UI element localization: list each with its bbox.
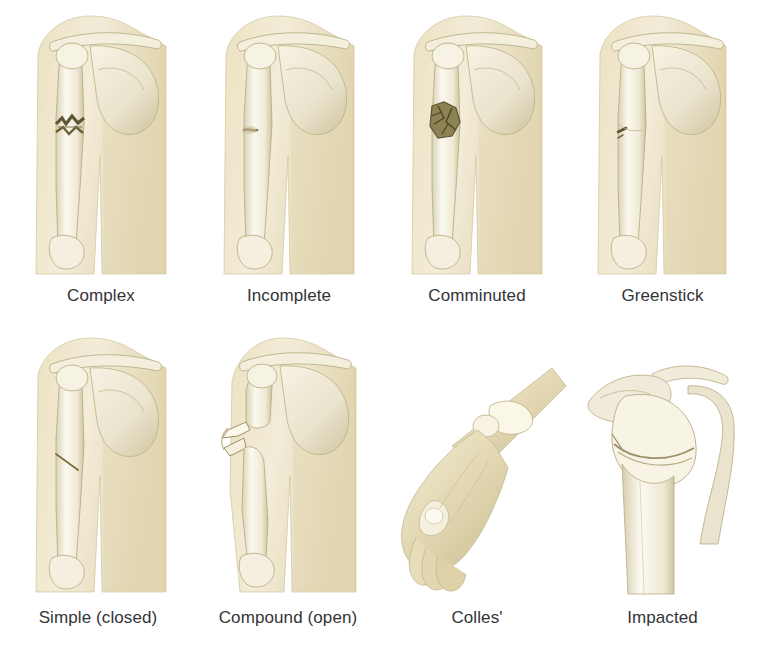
panel-label-simple-closed: Simple (closed) — [0, 608, 196, 628]
panel-label-incomplete: Incomplete — [194, 286, 384, 306]
panel-label-greenstick: Greenstick — [570, 286, 755, 306]
panel-label-compound-open: Compound (open) — [190, 608, 386, 628]
panel-label-comminuted: Comminuted — [382, 286, 572, 306]
panel-label-impacted: Impacted — [570, 608, 755, 628]
comminuted-fracture-illustration — [382, 6, 572, 284]
incomplete-fracture-illustration — [194, 6, 384, 284]
colles-fracture-illustration — [382, 350, 572, 602]
greenstick-fracture-illustration — [570, 6, 755, 284]
complex-fracture-illustration — [6, 6, 196, 284]
compound-open-fracture-illustration — [194, 330, 384, 602]
fracture-panel-greenstick — [570, 6, 755, 284]
fracture-panel-impacted — [570, 348, 755, 602]
fracture-panel-comminuted — [382, 6, 572, 284]
panel-label-colles: Colles' — [382, 608, 572, 628]
fracture-panel-simple-closed — [6, 330, 196, 602]
simple-closed-fracture-illustration — [6, 330, 196, 602]
impacted-fracture-illustration — [570, 348, 755, 602]
fracture-panel-colles — [382, 350, 572, 602]
fracture-types-figure: Complex Incomplete Comminuted Greenstick… — [0, 0, 757, 651]
fracture-panel-compound-open — [194, 330, 384, 602]
fracture-panel-incomplete — [194, 6, 384, 284]
fracture-panel-complex — [6, 6, 196, 284]
panel-label-complex: Complex — [6, 286, 196, 306]
